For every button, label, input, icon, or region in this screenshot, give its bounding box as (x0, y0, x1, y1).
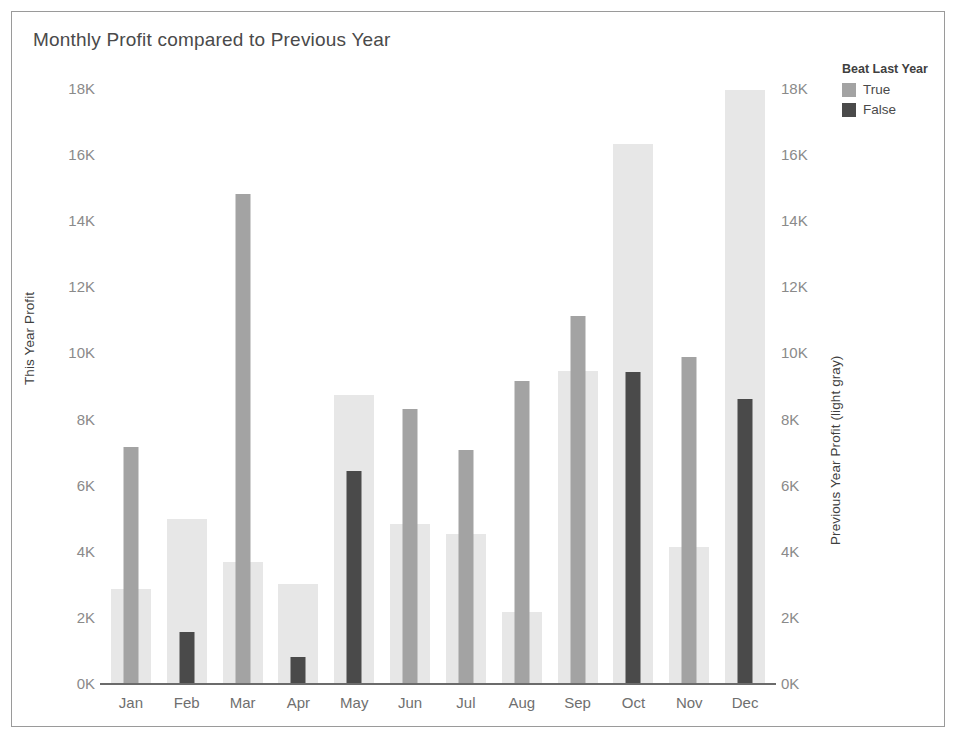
x-axis-line (100, 683, 776, 685)
axis-tick-label: 8K (781, 412, 821, 427)
chart-title: Monthly Profit compared to Previous Year (33, 29, 391, 51)
axis-tick-label: 18K (781, 81, 821, 96)
left-axis-tick-labels: 0K2K4K6K8K10K12K14K16K18K (55, 88, 95, 683)
axis-tick-label: 10K (781, 345, 821, 360)
axis-tick-label: 6K (781, 478, 821, 493)
axis-tick-label: 2K (781, 610, 821, 625)
bar-this-year[interactable] (570, 316, 585, 683)
left-axis-title: This Year Profit (22, 292, 37, 385)
bar-group[interactable] (494, 88, 550, 683)
bar-this-year[interactable] (626, 372, 641, 683)
x-axis-tick-label: Aug (494, 694, 550, 711)
bar-this-year[interactable] (682, 357, 697, 683)
axis-tick-label: 12K (781, 279, 821, 294)
bar-group[interactable] (550, 88, 606, 683)
axis-tick-label: 18K (55, 81, 95, 96)
axis-tick-label: 16K (781, 147, 821, 162)
bar-group[interactable] (717, 88, 773, 683)
x-axis-tick-label: May (326, 694, 382, 711)
x-axis-tick-labels: JanFebMarAprMayJunJulAugSepOctNovDec (103, 694, 773, 720)
bar-group[interactable] (438, 88, 494, 683)
axis-tick-label: 6K (55, 478, 95, 493)
bar-group[interactable] (103, 88, 159, 683)
legend-title: Beat Last Year (842, 62, 937, 76)
plot-area (103, 88, 773, 683)
bar-this-year[interactable] (179, 632, 194, 683)
bar-group[interactable] (159, 88, 215, 683)
legend-swatch-icon (842, 83, 856, 97)
bar-this-year[interactable] (514, 381, 529, 683)
x-axis-tick-label: Apr (271, 694, 327, 711)
axis-tick-label: 2K (55, 610, 95, 625)
legend-swatch-icon (842, 103, 856, 117)
x-axis-tick-label: Oct (606, 694, 662, 711)
axis-tick-label: 14K (781, 213, 821, 228)
chart-page: Monthly Profit compared to Previous Year… (0, 0, 959, 741)
bar-this-year[interactable] (403, 409, 418, 683)
x-axis-tick-label: Mar (215, 694, 271, 711)
axis-tick-label: 10K (55, 345, 95, 360)
axis-tick-label: 0K (781, 676, 821, 691)
axis-tick-label: 8K (55, 412, 95, 427)
axis-tick-label: 0K (55, 676, 95, 691)
legend: Beat Last Year TrueFalse (842, 62, 937, 120)
legend-item-label: True (863, 82, 890, 97)
bar-this-year[interactable] (291, 657, 306, 683)
x-axis-tick-label: Dec (717, 694, 773, 711)
legend-item-label: False (863, 102, 896, 117)
x-axis-tick-label: Nov (661, 694, 717, 711)
bar-group[interactable] (382, 88, 438, 683)
x-axis-tick-label: Sep (550, 694, 606, 711)
axis-tick-label: 4K (781, 544, 821, 559)
bar-group[interactable] (271, 88, 327, 683)
bar-group[interactable] (215, 88, 271, 683)
legend-items: TrueFalse (842, 80, 937, 119)
bar-group[interactable] (326, 88, 382, 683)
bar-this-year[interactable] (123, 447, 138, 683)
x-axis-tick-label: Feb (159, 694, 215, 711)
legend-item[interactable]: False (842, 100, 937, 119)
axis-tick-label: 12K (55, 279, 95, 294)
axis-tick-label: 16K (55, 147, 95, 162)
bar-this-year[interactable] (738, 399, 753, 683)
legend-item[interactable]: True (842, 80, 937, 99)
x-axis-tick-label: Jan (103, 694, 159, 711)
right-axis-tick-labels: 0K2K4K6K8K10K12K14K16K18K (781, 88, 821, 683)
axis-tick-label: 4K (55, 544, 95, 559)
bar-this-year[interactable] (235, 194, 250, 683)
bar-group[interactable] (661, 88, 717, 683)
axis-tick-label: 14K (55, 213, 95, 228)
bar-this-year[interactable] (458, 450, 473, 683)
bar-group[interactable] (606, 88, 662, 683)
right-axis-title: Previous Year Profit (light gray) (828, 356, 843, 545)
x-axis-tick-label: Jul (438, 694, 494, 711)
x-axis-tick-label: Jun (382, 694, 438, 711)
bars-container (103, 88, 773, 683)
bar-this-year[interactable] (347, 471, 362, 683)
